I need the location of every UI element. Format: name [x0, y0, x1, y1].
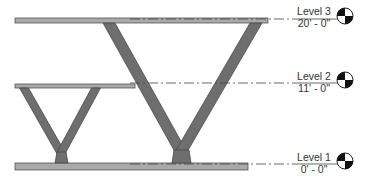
level-head-icon[interactable]: [337, 72, 353, 88]
level-2-elevation: 11' - 0": [294, 83, 334, 93]
big-v-right[interactable]: [175, 23, 262, 152]
level2-slab[interactable]: [15, 84, 135, 88]
level-1-name: Level 1: [294, 152, 334, 162]
small-v-left[interactable]: [20, 88, 66, 153]
level-head-icon[interactable]: [337, 153, 353, 169]
level-3-name: Level 3: [294, 6, 334, 16]
level-3-elevation: 20' - 0": [294, 18, 334, 28]
level-1-elevation: 0' - 0": [294, 164, 334, 174]
level-head-icon[interactable]: [337, 8, 353, 24]
big-v-base[interactable]: [172, 150, 191, 163]
level-markers: [337, 8, 353, 169]
small-v-base[interactable]: [55, 152, 68, 163]
small-v-right[interactable]: [57, 88, 101, 153]
roof-slab[interactable]: [15, 18, 268, 23]
level-2-name: Level 2: [294, 71, 334, 81]
base-plates: [55, 150, 191, 163]
